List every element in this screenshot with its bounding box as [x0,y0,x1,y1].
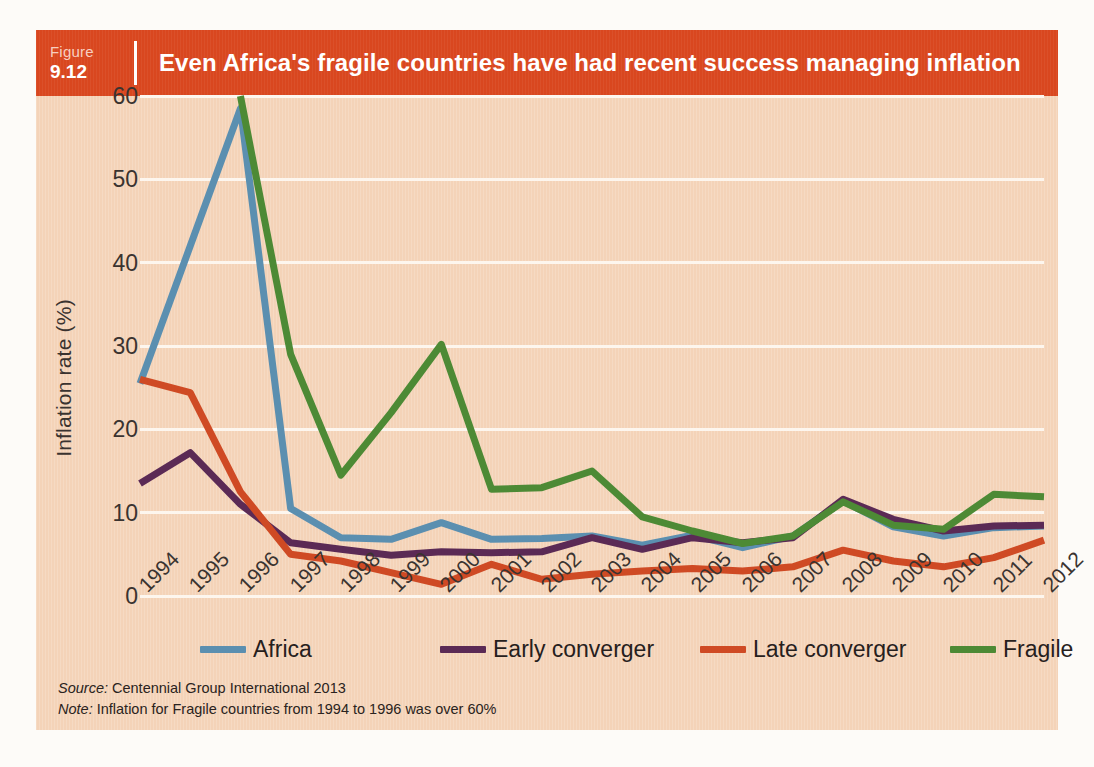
y-axis-ticks: 0102030405060 [64,96,138,730]
legend-item-africa[interactable]: Africa [200,636,312,663]
figure-number-block: Figure 9.12 [36,44,134,82]
legend-label: Early converger [493,636,654,663]
legend-swatch-icon [200,646,246,653]
figure-notes: Source: Centennial Group International 2… [58,680,958,722]
y-tick-label-30: 30 [78,333,138,360]
source-label: Source: [58,680,108,696]
note-text: Inflation for Fragile countries from 199… [97,701,497,717]
source-text: Centennial Group International 2013 [112,680,346,696]
legend-item-fragile[interactable]: Fragile [950,636,1073,663]
series-line-fragile [240,96,1044,544]
legend-label: Africa [253,636,312,663]
series-line-africa [140,109,1044,548]
legend-swatch-icon [700,646,746,653]
figure-number: 9.12 [50,62,134,82]
figure-title: Even Africa's fragile countries have had… [159,49,1021,77]
y-tick-label-10: 10 [78,499,138,526]
figure-root: Figure 9.12 Even Africa's fragile countr… [0,0,1094,767]
x-tick-label-2012: 2012 [1038,547,1088,597]
chart-area: Inflation rate (%) 0102030405060 1994199… [36,96,1058,730]
legend-item-late-converger[interactable]: Late converger [700,636,906,663]
legend-item-early-converger[interactable]: Early converger [440,636,654,663]
chart-legend: AfricaEarly convergerLate convergerFragi… [140,636,1020,670]
figure-header: Figure 9.12 Even Africa's fragile countr… [36,30,1058,96]
legend-swatch-icon [950,646,996,653]
source-line: Source: Centennial Group International 2… [58,680,958,696]
legend-swatch-icon [440,646,486,653]
figure-label: Figure [50,44,134,60]
note-line: Note: Inflation for Fragile countries fr… [58,701,958,717]
y-tick-label-50: 50 [78,166,138,193]
y-tick-label-0: 0 [78,583,138,610]
header-divider [134,41,137,85]
y-tick-label-40: 40 [78,249,138,276]
series-lines [140,96,1044,596]
y-tick-label-60: 60 [78,83,138,110]
legend-label: Late converger [753,636,906,663]
y-tick-label-20: 20 [78,416,138,443]
note-label: Note: [58,701,93,717]
plot-area [140,96,1044,596]
legend-label: Fragile [1003,636,1073,663]
